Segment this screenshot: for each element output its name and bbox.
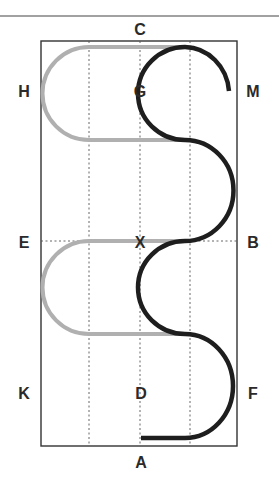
letter-a: A: [135, 454, 147, 471]
letter-m: M: [246, 83, 259, 100]
letter-x: X: [135, 234, 146, 251]
letter-f: F: [248, 385, 258, 402]
light-path: [43, 47, 191, 334]
letter-e: E: [19, 234, 30, 251]
light-half-circle-lower: [43, 241, 191, 334]
letter-d: D: [135, 385, 147, 402]
letter-g: G: [134, 83, 146, 100]
letter-c: C: [134, 21, 146, 38]
letter-h: H: [18, 83, 30, 100]
letter-k: K: [18, 385, 30, 402]
arena-diagram: C A H E K M B F G X D: [0, 0, 279, 482]
letter-b: B: [247, 234, 259, 251]
light-half-circle-upper: [43, 47, 191, 140]
